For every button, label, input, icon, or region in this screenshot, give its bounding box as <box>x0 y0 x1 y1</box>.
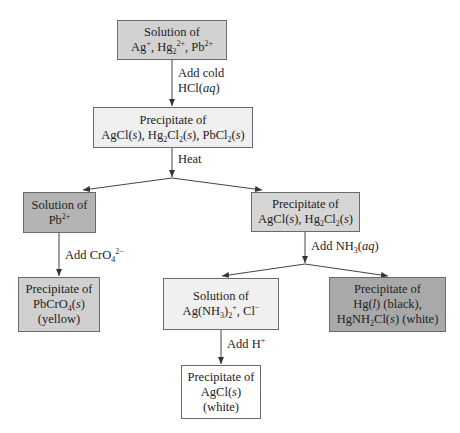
node-pbcro4-precipitate: Precipitate of PbCrO4(s) (yellow) <box>18 277 100 332</box>
node-ppt2-line2: AgCl(s), Hg2Cl2(s) <box>258 212 353 227</box>
node-pb-solution: Solution of Pb2+ <box>23 192 96 233</box>
arrow-to-pb-solution <box>83 178 172 190</box>
node-agnh3-line1: Solution of <box>193 289 249 304</box>
node-agcl-line3: (white) <box>203 400 239 415</box>
node-pbcro4-line3: (yellow) <box>38 312 80 327</box>
node-hg-line2: Hg(l) (black), <box>353 297 422 312</box>
arrow-to-ppt2 <box>172 178 262 190</box>
arrow-to-hg <box>305 264 388 276</box>
node-precipitate-chlorides: Precipitate of AgCl(s), Hg2Cl2(s), PbCl2… <box>93 107 253 148</box>
arrow-to-agnh3 <box>222 264 305 276</box>
edge-label-line1: Add cold <box>178 66 224 80</box>
edge-label-add-cro4: Add CrO42− <box>65 248 124 263</box>
node-pb-line2: Pb2+ <box>49 213 71 228</box>
node-ppt2-line1: Precipitate of <box>272 197 339 212</box>
edge-label-add-h: Add H+ <box>227 337 265 352</box>
node-agcl-precipitate: Precipitate of AgCl(s) (white) <box>181 365 261 419</box>
node-agnh3-line2: Ag(NH3)2+, Cl− <box>183 304 260 319</box>
edge-label-line2: HCl(aq) <box>178 81 220 95</box>
node-mercury-precipitate: Precipitate of Hg(l) (black), HgNH2Cl(s)… <box>329 277 446 332</box>
node-pb-line1: Solution of <box>32 198 88 213</box>
node-start-line2: Ag+, Hg22+, Pb2+ <box>131 40 213 55</box>
node-silver-ammine-solution: Solution of Ag(NH3)2+, Cl− <box>163 278 279 330</box>
node-agcl-line1: Precipitate of <box>188 370 255 385</box>
node-agcl-line2: AgCl(s) <box>201 385 241 400</box>
node-pbcro4-line1: Precipitate of <box>26 282 93 297</box>
node-start-solution: Solution of Ag+, Hg22+, Pb2+ <box>117 20 227 60</box>
edge-label-heat: Heat <box>178 152 202 167</box>
node-precipitate-agcl-hg2cl2: Precipitate of AgCl(s), Hg2Cl2(s) <box>251 192 360 232</box>
edge-label-add-cold-hcl: Add cold HCl(aq) <box>178 66 224 96</box>
node-hg-line3: HgNH2Cl(s) (white) <box>337 312 439 327</box>
node-pbcro4-line2: PbCrO4(s) <box>33 297 85 312</box>
node-start-line1: Solution of <box>144 25 200 40</box>
edge-label-add-nh3: Add NH3(aq) <box>311 239 379 254</box>
node-hg-line1: Precipitate of <box>354 282 421 297</box>
node-ppt1-line1: Precipitate of <box>140 113 207 128</box>
node-ppt1-line2: AgCl(s), Hg2Cl2(s), PbCl2(s) <box>101 128 244 143</box>
